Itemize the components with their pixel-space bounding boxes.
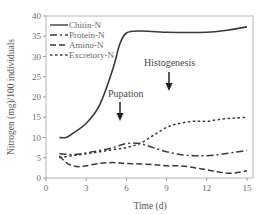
x-tick-label: 12 <box>202 183 211 193</box>
series-excretory-n <box>59 117 247 157</box>
legend: Chitin-N Protein-N Amino-N Excretory-N <box>50 20 114 60</box>
x-axis: 03691215 <box>44 178 252 193</box>
legend-label-chitin: Chitin-N <box>69 20 102 30</box>
y-tick-label: 30 <box>32 52 42 62</box>
y-tick-label: 0 <box>37 173 42 183</box>
legend-label-protein: Protein-N <box>69 30 105 40</box>
x-tick-label: 0 <box>44 183 49 193</box>
arrow-down-icon <box>117 102 124 121</box>
series-amino-n <box>59 156 247 173</box>
x-tick-label: 6 <box>124 183 129 193</box>
y-tick-label: 35 <box>32 31 42 41</box>
y-tick-label: 40 <box>32 11 42 21</box>
annotation-histogenesis: Histogenesis <box>144 57 195 68</box>
series-protein-n <box>59 143 247 156</box>
x-tick-label: 9 <box>164 183 169 193</box>
y-tick-label: 5 <box>37 153 42 163</box>
legend-label-amino: Amino-N <box>69 40 104 50</box>
annotation-pupation: Pupation <box>108 88 144 99</box>
x-axis-title: Time (d) <box>133 201 166 212</box>
legend-label-excretory: Excretory-N <box>69 50 114 60</box>
y-axis: 0510152025303540 <box>32 11 46 183</box>
y-tick-label: 25 <box>32 72 42 82</box>
arrow-down-icon <box>166 72 173 91</box>
x-tick-label: 15 <box>243 183 253 193</box>
y-tick-label: 15 <box>32 112 42 122</box>
y-tick-label: 10 <box>32 133 42 143</box>
x-tick-label: 3 <box>84 183 89 193</box>
y-tick-label: 20 <box>32 92 42 102</box>
y-axis-title: Nitrogen (mg)/100 individuals <box>6 39 17 155</box>
nitrogen-chart: 0510152025303540 03691215 Chitin-N Prote… <box>0 0 266 215</box>
